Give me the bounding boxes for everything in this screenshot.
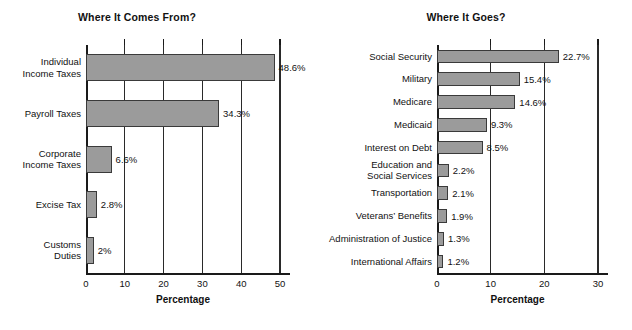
chart-title-right: Where It Goes? — [308, 11, 624, 23]
category-label: Transportation — [310, 187, 432, 199]
bar — [86, 237, 94, 264]
x-axis-top-tick — [544, 39, 545, 45]
plot-area-right: 010203022.7%Social Security15.4%Military… — [437, 45, 598, 273]
bar-value-label: 22.7% — [563, 52, 590, 62]
x-axis-top-tick — [163, 39, 164, 45]
category-label: Veterans’ Benefits — [310, 210, 432, 222]
bar — [437, 50, 559, 64]
bar — [437, 232, 444, 246]
x-tick-label: 30 — [583, 279, 613, 289]
x-axis-title-right: Percentage — [458, 295, 578, 305]
bar-value-label: 1.9% — [451, 212, 473, 222]
x-axis-top-tick — [490, 39, 491, 45]
category-label: Customs Duties — [0, 239, 81, 262]
bar-value-label: 48.6% — [279, 63, 306, 73]
dual-bar-chart-figure: Where It Comes From? 0102030405048.6%Ind… — [0, 0, 632, 330]
category-label: Social Security — [310, 51, 432, 63]
gridline — [597, 45, 598, 273]
bar — [86, 54, 275, 81]
x-tick-label: 40 — [226, 279, 256, 289]
bar-value-label: 2.2% — [453, 166, 475, 176]
plot-area-left: 0102030405048.6%Individual Income Taxes3… — [86, 45, 280, 273]
bar-value-label: 8.5% — [487, 143, 509, 153]
category-label: Military — [310, 73, 432, 85]
category-label: Education and Social Services — [310, 159, 432, 182]
category-label: Medicare — [310, 96, 432, 108]
x-axis-top-tick — [279, 39, 280, 45]
x-axis-top-tick — [597, 39, 598, 45]
x-tick-label: 50 — [265, 279, 295, 289]
category-label: International Affairs — [310, 256, 432, 268]
bar-value-label: 9.3% — [491, 120, 513, 130]
chart-panel-where-it-goes: Where It Goes? 010203022.7%Social Securi… — [316, 0, 632, 330]
x-tick-label: 20 — [149, 279, 179, 289]
bar — [437, 141, 483, 155]
category-label: Excise Tax — [0, 199, 81, 211]
x-axis-line — [86, 273, 290, 275]
bar-value-label: 6.6% — [116, 155, 138, 165]
bar — [437, 118, 487, 132]
bar — [437, 95, 515, 109]
x-tick-label: 0 — [71, 279, 101, 289]
x-tick-label: 20 — [529, 279, 559, 289]
x-tick-label: 10 — [110, 279, 140, 289]
x-tick-label: 30 — [187, 279, 217, 289]
bar-value-label: 2.8% — [101, 200, 123, 210]
gridline — [279, 45, 280, 273]
x-tick-label: 0 — [422, 279, 452, 289]
x-axis-top-tick — [202, 39, 203, 45]
x-axis-top-tick — [241, 39, 242, 45]
bar-value-label: 1.3% — [448, 234, 470, 244]
bar — [437, 72, 520, 86]
bar — [437, 186, 448, 200]
chart-title-left: Where It Comes From? — [0, 11, 295, 23]
bar — [437, 209, 447, 223]
bar-value-label: 14.6% — [519, 98, 546, 108]
bar-value-label: 15.4% — [524, 75, 551, 85]
x-axis-top-tick — [124, 39, 125, 45]
bar — [86, 100, 219, 127]
bar — [86, 146, 112, 173]
category-label: Corporate Income Taxes — [0, 148, 81, 171]
category-label: Individual Income Taxes — [0, 56, 81, 79]
x-axis-line — [437, 273, 608, 275]
category-label: Administration of Justice — [310, 233, 432, 245]
bar-value-label: 2.1% — [452, 189, 474, 199]
bar — [86, 191, 97, 218]
bar-value-label: 2% — [98, 246, 112, 256]
x-axis-title-left: Percentage — [123, 295, 243, 305]
chart-panel-where-it-comes-from: Where It Comes From? 0102030405048.6%Ind… — [0, 0, 316, 330]
bar — [437, 255, 443, 269]
bar — [437, 164, 449, 178]
bar-value-label: 34.3% — [223, 109, 250, 119]
category-label: Payroll Taxes — [0, 108, 81, 120]
category-label: Medicaid — [310, 119, 432, 131]
x-tick-label: 10 — [476, 279, 506, 289]
bar-value-label: 1.2% — [447, 257, 469, 267]
category-label: Interest on Debt — [310, 142, 432, 154]
